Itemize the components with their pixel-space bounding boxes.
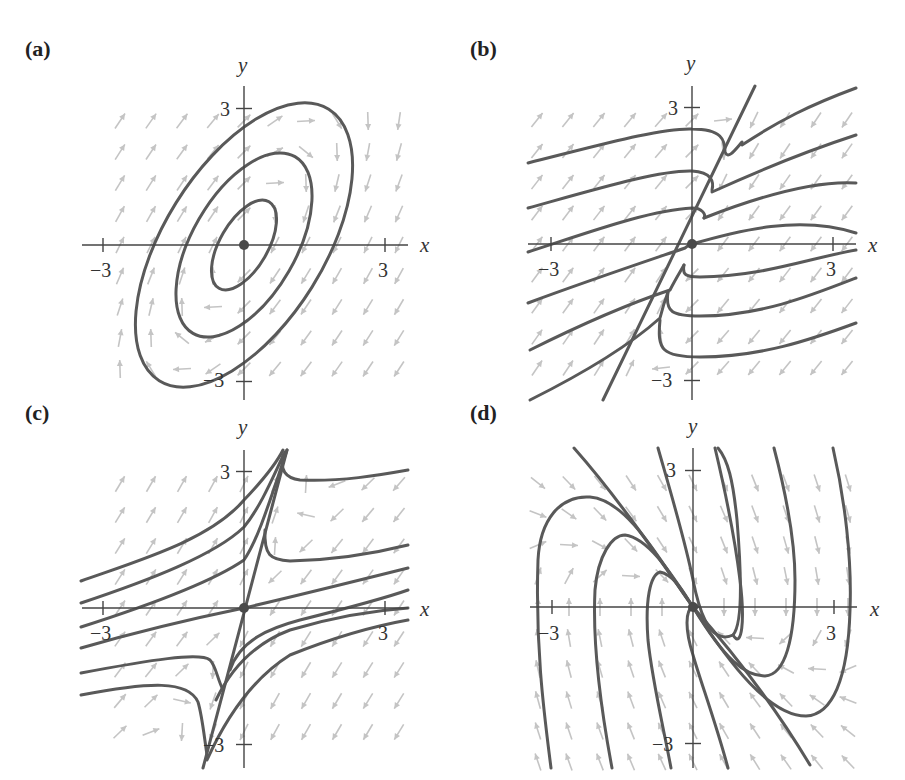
field-arrowhead-icon	[752, 610, 758, 616]
tick-x-pos-a: 3	[378, 259, 388, 281]
tick-y-neg-b: −3	[651, 369, 672, 391]
panel-a	[82, 67, 408, 423]
field-arrowhead-icon	[179, 298, 185, 304]
field-arrowhead-icon	[332, 578, 338, 585]
tick-y-pos-d: 3	[666, 459, 676, 481]
field-arrowhead-icon	[781, 755, 787, 762]
y-axis-label-c: y	[236, 415, 248, 439]
field-arrowhead-icon	[117, 360, 123, 366]
field-arrowhead-icon	[534, 753, 540, 760]
field-arrowhead-icon	[272, 537, 278, 543]
field-arrowhead-icon	[118, 329, 124, 335]
field-arrowhead-icon	[303, 186, 309, 192]
y-axis-label-b: y	[684, 51, 696, 75]
field-arrowhead-icon	[566, 598, 572, 604]
field-arrowhead-icon	[722, 578, 728, 585]
field-arrowhead-icon	[808, 666, 814, 672]
field-arrowhead-icon	[278, 180, 284, 186]
trajectory-eigenline	[603, 86, 755, 400]
field-arrowhead-icon	[150, 632, 156, 639]
y-axis-label-a: y	[236, 53, 248, 77]
field-arrowhead-icon	[204, 304, 210, 310]
field-arrowhead-icon	[634, 573, 640, 579]
field-arrowhead-icon	[309, 118, 315, 124]
tick-x-neg-c: −3	[90, 622, 111, 644]
x-axis-label-a: x	[419, 233, 430, 257]
panel-b	[528, 86, 856, 400]
field-arrowhead-icon	[749, 214, 755, 221]
tick-y-neg-c: −3	[203, 734, 224, 756]
panel-label-a: (a)	[25, 36, 51, 61]
field-arrowhead-icon	[179, 735, 185, 741]
field-arrowhead-icon	[184, 699, 191, 705]
field-arrowhead-icon	[149, 298, 155, 305]
field-arrowhead-icon	[814, 610, 820, 616]
trajectory-b10	[692, 225, 856, 244]
field-arrowhead-icon	[365, 124, 371, 130]
field-arrowhead-icon	[780, 183, 786, 190]
trajectory-d2	[594, 535, 693, 768]
tick-x-pos-d: 3	[826, 622, 836, 644]
field-arrowhead-icon	[302, 216, 308, 223]
field-arrowhead-icon	[570, 513, 577, 519]
panel-c	[81, 450, 408, 768]
field-arrowhead-icon	[842, 152, 848, 159]
trajectory-c7	[282, 455, 408, 480]
field-arrowhead-icon	[598, 299, 604, 306]
x-axis-label-d: x	[869, 597, 880, 621]
panel-label-c: (c)	[25, 400, 49, 425]
field-arrowhead-icon	[784, 578, 790, 584]
field-arrowhead-icon	[273, 506, 279, 513]
field-arrowhead-icon	[721, 610, 727, 616]
field-arrowhead-icon	[333, 185, 339, 192]
panel-d	[530, 448, 857, 771]
field-arrowhead-icon	[753, 547, 759, 554]
field-arrowhead-icon	[210, 673, 216, 679]
field-arrowhead-icon	[364, 185, 370, 192]
field-arrowhead-icon	[334, 155, 340, 161]
x-axis-label-c: x	[419, 597, 430, 621]
field-arrowhead-icon	[209, 703, 215, 710]
field-arrowhead-icon	[596, 629, 602, 635]
field-arrowhead-icon	[628, 598, 634, 604]
tick-y-pos-b: 3	[668, 97, 678, 119]
equilibrium-point	[239, 603, 249, 613]
axes-a	[82, 86, 408, 400]
field-arrowhead-icon	[815, 578, 821, 584]
trajectory-c3	[81, 450, 287, 627]
panel-label-b: (b)	[470, 36, 497, 61]
field-arrowhead-icon	[566, 629, 572, 635]
trajectory-b12	[667, 278, 856, 316]
y-axis-label-d: y	[686, 414, 698, 438]
field-arrowhead-icon	[180, 267, 186, 274]
field-arrowhead-icon	[597, 598, 603, 604]
field-arrowhead-icon	[150, 114, 156, 121]
equilibrium-point	[687, 239, 697, 249]
field-arrowhead-icon	[297, 511, 304, 517]
equilibrium-point	[688, 602, 698, 612]
trajectory-d7	[693, 448, 795, 676]
tick-y-neg-a: −3	[203, 369, 224, 391]
field-arrowhead-icon	[567, 299, 573, 306]
field-arrowhead-icon	[173, 366, 179, 372]
field-arrowhead-icon	[365, 154, 371, 160]
tick-x-neg-a: −3	[90, 259, 111, 281]
field-arrowhead-icon	[332, 370, 338, 377]
trajectory-b2	[528, 171, 713, 208]
field-arrowhead-icon	[148, 329, 154, 335]
field-arrowhead-icon	[629, 268, 635, 275]
panel-label-d: (d)	[470, 400, 497, 425]
tick-y-pos-a: 3	[220, 98, 230, 120]
tick-x-neg-b: −3	[538, 258, 559, 280]
field-arrowhead-icon	[565, 722, 571, 729]
tick-y-neg-d: −3	[652, 733, 673, 755]
tick-x-neg-d: −3	[538, 622, 559, 644]
tick-x-pos-b: 3	[826, 258, 836, 280]
field-arrowhead-icon	[536, 330, 542, 337]
field-arrowhead-icon	[627, 660, 633, 667]
trajectory-c6	[81, 685, 207, 755]
tick-y-pos-c: 3	[220, 461, 230, 483]
field-arrowhead-icon	[815, 485, 821, 492]
tick-x-pos-c: 3	[378, 622, 388, 644]
field-arrowhead-icon	[659, 598, 665, 604]
